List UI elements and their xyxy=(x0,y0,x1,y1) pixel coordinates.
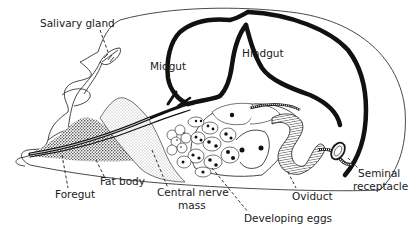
label-fat-body: Fat body xyxy=(100,175,145,187)
label-midgut: Midgut xyxy=(150,60,186,72)
seminal-receptacle xyxy=(328,140,347,162)
label-seminal-receptacle-1: Seminal xyxy=(358,167,400,179)
label-foregut: Foregut xyxy=(55,188,95,200)
label-seminal-receptacle-2: receptacle xyxy=(353,180,408,192)
label-central-nerve-mass-1: Central nerve xyxy=(157,186,229,198)
insect-anatomy-diagram: Salivary gland Midgut Hindgut Foregut Fa… xyxy=(0,0,417,231)
label-hindgut: Hindgut xyxy=(242,47,284,59)
label-oviduct: Oviduct xyxy=(292,190,333,202)
label-developing-eggs: Developing eggs xyxy=(244,212,332,224)
label-salivary-gland: Salivary gland xyxy=(40,17,115,29)
midgut xyxy=(168,12,249,106)
label-central-nerve-mass-2: mass xyxy=(178,199,206,211)
